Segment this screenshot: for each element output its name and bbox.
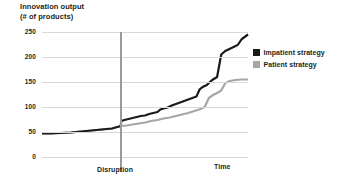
legend-swatch-patient xyxy=(253,61,260,68)
chart-title-line2: (# of products) xyxy=(20,12,73,21)
gridline xyxy=(42,132,248,133)
legend-label-patient: Patient strategy xyxy=(264,61,317,68)
legend-label-impatient: Impatient strategy xyxy=(264,49,325,56)
y-tick-label: 200 xyxy=(10,53,36,60)
legend-swatch-impatient xyxy=(253,49,260,56)
innovation-output-chart: Innovation output(# of products) 0501001… xyxy=(0,0,354,186)
gridline xyxy=(42,82,248,83)
disruption-marker-line xyxy=(120,32,122,172)
disruption-label: Disruption xyxy=(97,166,133,173)
legend-item-impatient: Impatient strategy xyxy=(253,47,325,57)
chart-axis-title: Innovation output(# of products) xyxy=(20,2,84,21)
gridline xyxy=(42,57,248,58)
y-tick-label: 50 xyxy=(10,128,36,135)
chart-legend: Impatient strategy Patient strategy xyxy=(253,47,325,71)
y-tick-label: 250 xyxy=(10,28,36,35)
gridline xyxy=(42,107,248,108)
plot-area xyxy=(42,32,248,157)
y-tick-label: 0 xyxy=(10,153,36,160)
y-tick-label: 150 xyxy=(10,78,36,85)
series-line xyxy=(42,35,248,134)
gridline xyxy=(42,32,248,33)
series-lines xyxy=(42,32,248,157)
legend-item-patient: Patient strategy xyxy=(253,59,325,69)
chart-title-line1: Innovation output xyxy=(20,2,84,11)
gridline xyxy=(42,157,248,158)
x-axis-label-time: Time xyxy=(214,163,231,170)
y-tick-label: 100 xyxy=(10,103,36,110)
